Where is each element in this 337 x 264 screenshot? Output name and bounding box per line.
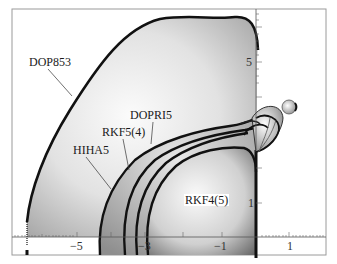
x-tick-minus1: −1 [214, 240, 227, 252]
label-dop853: DOP853 [29, 56, 71, 68]
x-tick-minus5: −5 [70, 240, 83, 252]
y-tick-1: 1 [248, 197, 254, 209]
label-hiha5: HIHA5 [73, 144, 109, 156]
label-rkf45: RKF4(5) [184, 194, 229, 206]
label-rkf54: RKF5(4) [102, 126, 145, 138]
x-tick-1: 1 [287, 240, 293, 252]
x-tick-minus3: −3 [138, 240, 151, 252]
label-dopri5: DOPRI5 [130, 109, 172, 121]
stability-diagram [0, 0, 337, 264]
y-tick-5: 5 [246, 56, 252, 68]
